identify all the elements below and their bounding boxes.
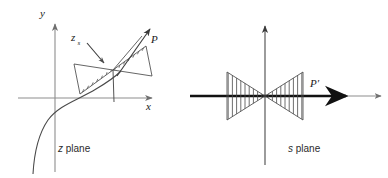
right-ray-label: P′ (309, 77, 320, 89)
conformal-mapping-figure: y x z s P z plane (0, 0, 388, 178)
left-panel-caption: z plane (57, 143, 91, 154)
right-panel-caption: s plane (288, 143, 321, 154)
right-panel-caption-rest: plane (293, 143, 321, 154)
left-zs-pointer-arrow (87, 43, 104, 63)
figure-canvas: y x z s P z plane (0, 0, 388, 178)
right-panel-s-plane: P′ s plane (190, 26, 381, 165)
left-panel-caption-rest: plane (63, 143, 91, 154)
left-ray-p (117, 29, 150, 76)
left-source-label-subscript: s (78, 39, 81, 47)
left-source-label: z s (70, 31, 81, 47)
left-hatched-wedge (69, 29, 158, 112)
left-ray-label: P (150, 33, 158, 45)
left-curve-path (33, 71, 121, 174)
left-axis-x-label: x (145, 100, 151, 112)
left-source-label-base: z (70, 31, 76, 43)
left-axis-y-label: y (39, 7, 45, 19)
left-panel-z-plane: y x z s P z plane (18, 7, 158, 174)
